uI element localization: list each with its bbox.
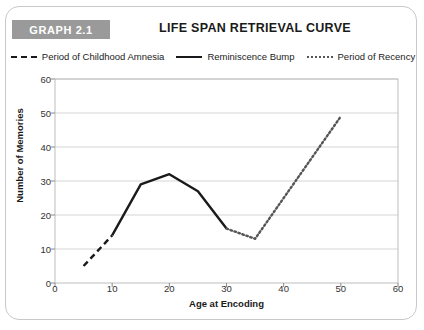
y-tick-label: 60 xyxy=(29,74,51,85)
x-tick-label: 60 xyxy=(383,283,413,294)
x-tick-label: 30 xyxy=(212,283,242,294)
y-tick-label: 10 xyxy=(29,244,51,255)
series-line-2 xyxy=(227,116,341,238)
y-tick-label: 30 xyxy=(29,176,51,187)
plot-area-wrapper: 0102030405060 0102030405060 Number of Me… xyxy=(0,0,424,330)
x-tick-label: 50 xyxy=(326,283,356,294)
y-tick-label: 20 xyxy=(29,210,51,221)
x-tick-label: 20 xyxy=(154,283,184,294)
x-tick-label: 10 xyxy=(97,283,127,294)
series-line-1 xyxy=(112,174,226,235)
y-tick-label: 40 xyxy=(29,142,51,153)
series-line-0 xyxy=(84,235,113,266)
x-tick-label: 40 xyxy=(269,283,299,294)
x-axis-tick-labels: 0102030405060 xyxy=(0,283,424,297)
x-tick-label: 0 xyxy=(40,283,70,294)
y-tick-label: 50 xyxy=(29,108,51,119)
chart-plot xyxy=(0,0,424,330)
y-axis-tick-labels: 0102030405060 xyxy=(27,0,51,330)
y-axis-title: Number of Memories xyxy=(14,96,25,216)
x-axis-title: Age at Encoding xyxy=(55,298,398,309)
